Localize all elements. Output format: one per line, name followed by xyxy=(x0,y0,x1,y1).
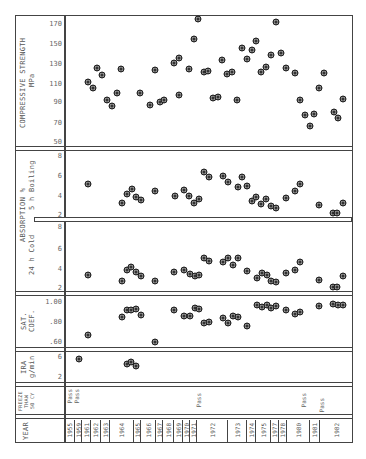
data-point xyxy=(273,279,280,286)
data-point xyxy=(239,45,246,52)
year-label: 1973 xyxy=(234,423,241,437)
data-point xyxy=(119,278,126,285)
freeze-thaw-result: Pass xyxy=(195,393,202,407)
data-point xyxy=(273,303,280,310)
data-point xyxy=(176,92,183,99)
tick: 130 xyxy=(38,60,62,68)
tick: .60 xyxy=(38,338,62,346)
data-point xyxy=(268,52,275,59)
data-point xyxy=(196,272,203,279)
data-point xyxy=(316,202,323,209)
data-point xyxy=(273,19,280,26)
divider xyxy=(15,150,353,151)
divider xyxy=(15,295,353,296)
tick: 6 xyxy=(38,245,62,253)
data-point xyxy=(307,123,314,130)
data-point xyxy=(340,200,347,207)
data-point xyxy=(196,306,203,313)
data-point xyxy=(119,200,126,207)
year-label: 1970 xyxy=(183,423,190,437)
data-point xyxy=(335,115,342,122)
data-point xyxy=(225,320,232,327)
label-column-divider xyxy=(64,15,66,443)
data-point xyxy=(215,94,222,101)
data-point xyxy=(316,303,323,310)
data-point xyxy=(118,66,125,73)
data-point xyxy=(99,72,106,79)
year-label: 1969 xyxy=(175,423,182,437)
tick: 4 xyxy=(38,192,62,200)
year-label: 1962 xyxy=(92,423,99,437)
data-point xyxy=(297,97,304,104)
data-point xyxy=(225,255,232,262)
data-point xyxy=(129,186,136,193)
data-point xyxy=(239,174,246,181)
data-point xyxy=(235,314,242,321)
year-label: 1981 xyxy=(311,423,318,437)
data-point xyxy=(244,56,251,63)
data-point xyxy=(85,181,92,188)
data-point xyxy=(187,313,194,320)
tick: 2 xyxy=(38,211,62,219)
tick: 6 xyxy=(38,172,62,180)
tick: 4 xyxy=(38,265,62,273)
data-point xyxy=(114,90,121,97)
data-point xyxy=(171,269,178,276)
year-label: YEAR xyxy=(22,420,30,442)
tick: 6 xyxy=(38,353,62,361)
divider xyxy=(15,382,353,383)
year-label: 1965 xyxy=(134,423,141,437)
compressive-strength-label: COMPRESSIVE STRENGTH xyxy=(19,25,27,140)
tick: 1.00 xyxy=(38,298,62,306)
data-point xyxy=(119,314,126,321)
data-point xyxy=(171,307,178,314)
year-label: 1961 xyxy=(83,423,90,437)
year-label: 1968 xyxy=(165,423,172,437)
divider xyxy=(15,414,353,415)
data-point xyxy=(340,273,347,280)
data-point xyxy=(263,64,270,71)
year-label: 1967 xyxy=(156,423,163,437)
data-point xyxy=(205,68,212,75)
data-point xyxy=(273,205,280,212)
data-point xyxy=(94,65,101,72)
data-point xyxy=(85,272,92,279)
data-point xyxy=(152,67,159,74)
divider xyxy=(15,291,353,292)
data-point xyxy=(229,69,236,76)
absorption-divider-bracket xyxy=(34,217,352,222)
divider xyxy=(15,351,353,352)
year-label: 1959 xyxy=(75,423,82,437)
data-point xyxy=(195,16,202,23)
data-point xyxy=(186,193,193,200)
data-point xyxy=(244,323,251,330)
data-point xyxy=(85,332,92,339)
data-point xyxy=(297,259,304,266)
data-point xyxy=(340,96,347,103)
divider xyxy=(15,386,353,387)
data-point xyxy=(138,273,145,280)
data-point xyxy=(76,356,83,363)
year-label: 1971 xyxy=(190,423,197,437)
ira-label: IRA g/min xyxy=(20,353,36,381)
year-label: 1980 xyxy=(295,423,302,437)
year-label: 1982 xyxy=(333,423,340,437)
data-point xyxy=(283,307,290,314)
data-point xyxy=(206,319,213,326)
data-point xyxy=(225,179,232,186)
year-label: 1977 xyxy=(271,423,278,437)
data-point xyxy=(283,270,290,277)
data-point xyxy=(321,70,328,77)
data-point xyxy=(316,85,323,92)
data-point xyxy=(235,184,242,191)
freeze-thaw-result: Pass xyxy=(318,398,325,412)
data-point xyxy=(253,38,260,45)
data-point xyxy=(283,65,290,72)
data-point xyxy=(292,267,299,274)
data-point xyxy=(133,363,140,370)
data-point xyxy=(316,277,323,284)
data-point xyxy=(253,194,260,201)
data-point xyxy=(147,102,154,109)
data-point xyxy=(219,57,226,64)
data-point xyxy=(196,196,203,203)
